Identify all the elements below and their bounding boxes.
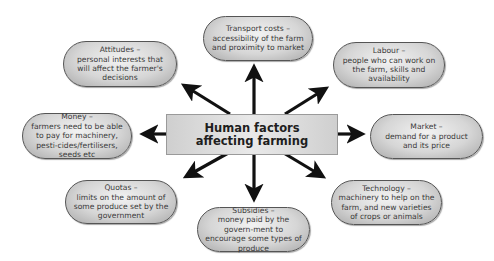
arrow-to-quotas <box>187 152 230 176</box>
node-quotas: Quotas – limits on the amount of some pr… <box>65 180 177 224</box>
node-subsidies: Subsidies – money paid by the govern-men… <box>197 207 310 252</box>
node-labour: Labour – people who can work on the farm… <box>333 42 445 88</box>
node-description: people who can work on the farm, skills … <box>340 56 438 84</box>
node-title: Attitudes – <box>100 45 141 54</box>
arrow-to-labour <box>285 89 325 114</box>
node-description: money paid by the govern-ment to encoura… <box>204 215 303 253</box>
node-title: Market – <box>410 122 442 131</box>
node-description: accessibility of the farm and proximity … <box>210 34 306 53</box>
node-description: farmers need to be able to pay for machi… <box>29 122 125 160</box>
node-market: Market – demand for a product and its pr… <box>370 114 483 159</box>
node-money: Money – farmers need to be able to pay f… <box>22 113 132 159</box>
node-description: demand for a product and its price <box>377 132 476 151</box>
node-description: machinery to help on the farm, and new v… <box>338 193 435 221</box>
node-title: Money – <box>61 112 92 121</box>
node-description: limits on the amount of some produce set… <box>72 193 170 221</box>
central-topic: Human factors affecting farming <box>166 114 338 155</box>
node-technology: Technology – machinery to help on the fa… <box>331 180 442 225</box>
node-title: Quotas – <box>104 183 137 192</box>
node-transport: Transport costs – accessibility of the f… <box>203 16 313 61</box>
node-title: Labour – <box>373 46 406 55</box>
node-title: Subsidies – <box>232 206 274 215</box>
node-attitudes: Attitudes – personal interests that will… <box>63 41 177 87</box>
node-title: Transport costs – <box>226 24 290 33</box>
central-topic-label: Human factors affecting farming <box>177 122 327 148</box>
node-description: personal interests that will affect the … <box>70 55 170 83</box>
arrow-to-attitudes <box>185 86 230 114</box>
node-title: Technology – <box>362 184 411 193</box>
arrow-to-technology <box>282 152 322 176</box>
